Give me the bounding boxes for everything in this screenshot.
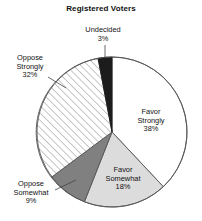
label-favor-somewhat-value: 18% [92, 183, 154, 192]
label-favor-somewhat: Favor Somewhat 18% [92, 166, 154, 192]
pie-chart: Registered Voters Undecided 3% [0, 0, 202, 221]
label-oppose-strongly: Oppose Strongly 32% [2, 54, 58, 80]
label-undecided-value: 3% [58, 35, 148, 44]
label-oppose-somewhat: Oppose Somewhat 9% [0, 180, 62, 206]
label-oppose-somewhat-value: 9% [0, 197, 62, 206]
label-favor-strongly-value: 38% [124, 125, 178, 134]
label-undecided: Undecided 3% [58, 26, 148, 43]
label-favor-strongly: Favor Strongly 38% [124, 108, 178, 134]
label-oppose-strongly-value: 32% [2, 71, 58, 80]
